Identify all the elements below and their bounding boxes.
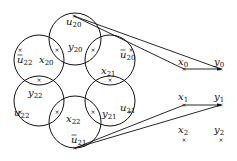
label-x21: x21: [101, 65, 116, 78]
point-marker-icon: ×: [17, 46, 22, 53]
point-marker-icon: ×: [90, 108, 95, 115]
point-marker-icon: ×: [218, 136, 223, 143]
label-y20: y20: [67, 41, 83, 54]
label-ubar22: u22: [17, 54, 32, 67]
point-marker-icon: ×: [54, 108, 59, 115]
label-y22: y22: [27, 87, 43, 100]
diagram-canvas: ×××××××××××××××××× u20y20u22x20u20x21y22…: [0, 0, 237, 161]
point-marker-icon: ×: [54, 46, 59, 53]
edge-u20-to-y0: [74, 16, 221, 69]
point-marker-icon: ×: [36, 76, 41, 83]
label-x2: x2: [178, 124, 188, 137]
label-y21: y21: [101, 108, 117, 121]
label-x22: x22: [66, 113, 81, 126]
label-x1: x1: [178, 91, 188, 104]
edge-u21bar-to-y1: [75, 105, 221, 148]
label-u21: u21: [120, 102, 135, 115]
point-marker-icon: ×: [128, 46, 133, 53]
label-x20: x20: [39, 54, 54, 67]
point-marker-icon: ×: [181, 136, 186, 143]
circle-group: [14, 13, 135, 148]
point-marker-icon: ×: [90, 46, 95, 53]
edge-group: [74, 16, 221, 148]
